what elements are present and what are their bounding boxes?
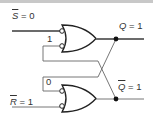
sr-latch-diagram: S = 0 Q = 1 1 0 R = 1 Q = 1	[0, 0, 153, 124]
q-bar-junction-dot	[114, 97, 119, 102]
q-bar-label: Q = 1	[118, 82, 142, 92]
top-nand-gate	[60, 25, 96, 52]
s-bar-label: S = 0	[12, 11, 34, 21]
q-label: Q = 1	[119, 21, 143, 31]
bottom-nand-gate	[60, 85, 96, 112]
r-bar-label: R = 1	[10, 97, 33, 107]
bottom-feedback-value: 0	[46, 77, 51, 87]
top-feedback-value: 1	[47, 34, 52, 44]
q-junction-dot	[114, 37, 119, 42]
